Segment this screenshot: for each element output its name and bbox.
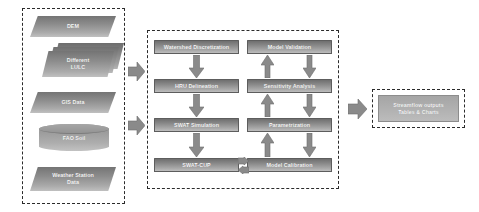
arrow-swat-cup-to-model-calibration [238,157,249,174]
process-node-parametrization[interactable]: Parametrization [247,118,332,132]
output-node-line2: Tables & Charts [398,109,439,115]
workflow-diagram: DEM Different LULC GIS Data FAO Soil Wea… [0,0,479,212]
process-node-swat-cup-label: SWAT-CUP [182,162,210,169]
process-node-hru-delineation-label: HRU Delineation [175,83,218,90]
input-node-lulc-label-line1: Different [67,57,90,63]
process-node-sensitivity-analysis-label: Sensitivity Analysis [264,83,315,90]
input-node-dem[interactable]: DEM [30,16,116,37]
arrow-swat-simulation-to-swat-cup [189,133,204,157]
arrow-parametrization-to-sensitivity [261,94,274,117]
arrow-model-calibration-to-parametrization [261,133,274,157]
process-node-model-calibration-label: Model Calibration [266,162,312,169]
process-node-parametrization-label: Parametrization [269,122,310,129]
arrow-watershed-to-hru [189,55,204,78]
input-node-lulc-label: Different LULC [67,57,90,70]
arrow-parametrization-to-model-calibration [303,133,316,157]
process-node-watershed-discretization-label: Watershed Discretization [164,44,229,51]
arrow-process-to-outputs [348,99,367,119]
input-node-gis-data[interactable]: GIS Data [30,92,116,113]
input-node-lulc[interactable]: Different LULC [42,51,114,77]
arrow-inputs-to-process-lower [128,116,145,135]
arrow-sensitivity-to-parametrization [303,94,316,117]
input-node-weather-line2: Data [67,179,79,185]
output-node-line1: Streamflow outputs [393,102,443,108]
process-node-swat-simulation-label: SWAT Simulation [174,122,219,129]
process-node-model-validation[interactable]: Model Validation [247,40,332,54]
input-node-weather-station-data-label: Weather Station Data [52,172,94,185]
process-node-watershed-discretization[interactable]: Watershed Discretization [154,40,239,54]
input-node-fao-soil-label: FAO Soil [39,135,109,141]
arrow-sensitivity-to-model-validation [261,55,274,78]
process-node-swat-simulation[interactable]: SWAT Simulation [154,118,239,132]
arrow-inputs-to-process-upper [128,62,145,81]
output-node-streamflow-outputs[interactable]: Streamflow outputs Tables & Charts [378,95,459,122]
input-node-fao-soil[interactable]: FAO Soil [39,124,109,151]
process-node-swat-cup[interactable]: SWAT-CUP [154,158,239,172]
input-node-weather-station-data[interactable]: Weather Station Data [30,167,116,191]
process-node-sensitivity-analysis[interactable]: Sensitivity Analysis [247,79,332,93]
process-node-hru-delineation[interactable]: HRU Delineation [154,79,239,93]
input-node-lulc-label-line2: LULC [71,64,86,70]
output-node-streamflow-outputs-label: Streamflow outputs Tables & Charts [393,102,443,115]
process-node-model-calibration[interactable]: Model Calibration [247,158,332,172]
process-node-model-validation-label: Model Validation [268,44,311,51]
input-node-lulc-sheet-1: Different LULC [42,51,114,77]
input-node-gis-data-label: GIS Data [62,99,85,106]
arrow-model-validation-to-sensitivity [303,55,316,78]
input-node-dem-label: DEM [67,23,79,30]
arrow-hru-to-swat-simulation [189,94,204,117]
input-node-weather-line1: Weather Station [52,172,94,178]
